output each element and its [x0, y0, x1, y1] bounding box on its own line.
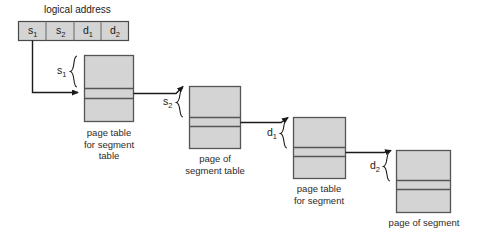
connector-address-to-block1	[33, 41, 79, 93]
caption-page-table-for-segment-table: page table for segment table	[59, 127, 159, 162]
brace-label-d2-sub: 2	[376, 165, 380, 174]
caption-line: page of	[165, 153, 265, 165]
caption-line: table	[59, 150, 159, 162]
brace-label-d1: d1	[267, 126, 277, 141]
caption-page-of-segment: page of segment	[374, 217, 474, 229]
logical-address-title: logical address	[44, 4, 111, 15]
brace-label-s2: s2	[163, 95, 172, 110]
brace-label-s2-sub: 2	[168, 101, 172, 110]
address-cell-s2: s2	[56, 24, 65, 39]
brace-d2	[384, 152, 391, 181]
brace-s1	[71, 56, 78, 87]
connector-block2-to-block3	[241, 118, 289, 123]
caption-line: page table	[269, 183, 369, 195]
brace-label-d1-sub: 1	[273, 132, 277, 141]
address-cell-s1: s1	[28, 24, 37, 39]
caption-line: for segment	[269, 195, 369, 207]
address-cell-d2-sub: 2	[116, 30, 120, 39]
address-cell-s1-sub: 1	[33, 30, 37, 39]
caption-line: for segment	[59, 139, 159, 151]
block-page-table-for-segment	[294, 118, 346, 179]
caption-page-of-segment-table: page of segment table	[165, 153, 265, 176]
block-page-of-segment-table	[190, 87, 241, 149]
caption-line: segment table	[165, 165, 265, 177]
connector-block3-to-block4	[346, 151, 392, 153]
brace-label-d2: d2	[370, 159, 380, 174]
caption-line: page table	[59, 127, 159, 139]
address-cell-d2: d2	[110, 24, 120, 39]
connector-block1-to-block2	[134, 87, 184, 94]
address-cell-d1: d1	[83, 24, 93, 39]
brace-label-s1: s1	[57, 64, 66, 79]
brace-d1	[281, 119, 288, 148]
brace-label-s1-sub: 1	[62, 70, 66, 79]
diagram-vector-layer	[0, 0, 478, 239]
caption-page-table-for-segment: page table for segment	[269, 183, 369, 206]
block-page-of-segment	[397, 151, 451, 213]
block-page-table-for-segment-table	[85, 56, 134, 122]
address-cell-d1-sub: 1	[89, 30, 93, 39]
segmentation-paging-diagram: logical address s1 s2 d1 d2 s1 s2 d1 d2 …	[0, 0, 478, 239]
address-cell-s2-sub: 2	[61, 30, 65, 39]
caption-line: page of segment	[374, 217, 474, 229]
